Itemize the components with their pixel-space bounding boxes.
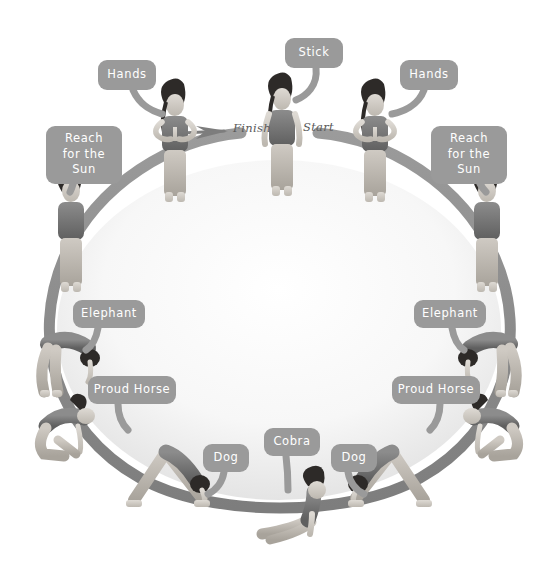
callout-sun-right: Reach for the Sun [431, 126, 507, 184]
callout-hands-left: Hands [98, 60, 156, 90]
tail-hands-left [133, 90, 162, 114]
tail-horse-right [430, 404, 440, 430]
sun-salutation-diagram: StickHandsHandsReach for the SunReach fo… [0, 0, 558, 574]
sequence-marker-start: Start [303, 120, 334, 134]
callout-stick: Stick [285, 38, 343, 68]
tail-stick [296, 68, 316, 100]
callout-hands-right: Hands [400, 60, 458, 90]
callout-elephant-left: Elephant [73, 300, 145, 328]
callout-horse-right: Proud Horse [392, 376, 480, 404]
tail-dog-right [348, 472, 364, 494]
sequence-marker-finish: Finish [233, 121, 271, 135]
callout-cobra: Cobra [264, 428, 320, 456]
callout-tails [0, 0, 558, 574]
tail-hands-right [392, 90, 424, 114]
tail-horse-left [118, 404, 128, 430]
callout-elephant-right: Elephant [414, 300, 486, 328]
tail-dog-left [208, 472, 224, 494]
tail-elephant-left [86, 328, 98, 350]
tail-elephant-right [452, 328, 464, 350]
callout-dog-right: Dog [331, 444, 377, 472]
callout-sun-left: Reach for the Sun [46, 126, 122, 184]
callout-horse-left: Proud Horse [88, 376, 176, 404]
callout-dog-left: Dog [203, 444, 249, 472]
tail-cobra [286, 456, 288, 490]
